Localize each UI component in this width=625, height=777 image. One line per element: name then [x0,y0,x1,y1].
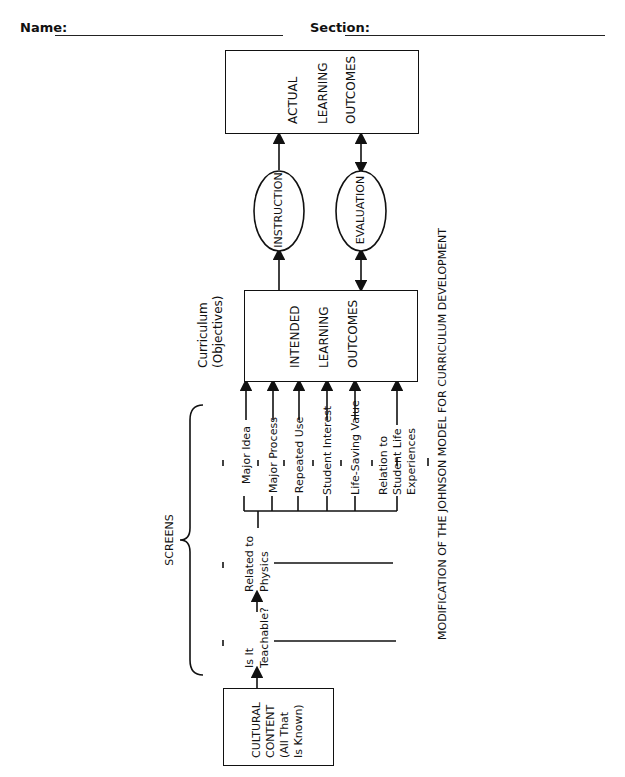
criterion-relation-line-3: Experiences [405,428,418,495]
is-it-teachable-line-1: Is It [243,648,256,668]
criterion-life-saving-value: Life-Saving Value [349,415,362,495]
intended-line-3: OUTCOMES [346,300,360,368]
actual-line-3: OUTCOMES [344,56,358,124]
cultural-line-1: CULTURAL [250,702,263,758]
instruction-label: INSTRUCTION [272,168,285,252]
intended-line-1: INTENDED [288,306,302,368]
related-to-physics-line-1: Related to [243,536,256,592]
screens-label: SCREENS [163,500,176,580]
cultural-line-3: (All That [278,712,291,758]
related-to-physics-line-2: Physics [258,551,271,592]
actual-line-1: ACTUAL [286,77,300,124]
criterion-repeated-use: Repeated Use [293,415,306,495]
cultural-line-2: CONTENT [264,705,277,758]
intended-line-2: LEARNING [317,306,331,368]
criterion-relation-line-1: Relation to [377,436,390,495]
criterion-major-idea: Major Idea [240,415,253,495]
criterion-major-process: Major Process [267,415,280,495]
cultural-line-4: Is Known) [292,704,305,758]
diagram-caption: MODIFICATION OF THE JOHNSON MODEL FOR CU… [436,228,449,640]
actual-line-2: LEARNING [316,62,330,124]
intended-learning-outcomes-box [244,290,418,382]
evaluation-label: EVALUATION [354,168,367,252]
criterion-student-interest: Student Interest [321,415,334,495]
criterion-relation-line-2: Student Life [391,428,404,495]
is-it-teachable-line-2: Teachable? [258,607,271,668]
curriculum-label-1: Curriculum [196,302,210,368]
curriculum-label-2: (Objectives) [211,295,225,368]
